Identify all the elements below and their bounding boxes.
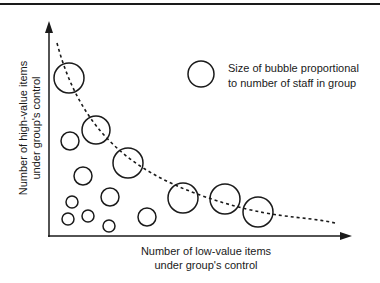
- y-axis-label-line2: under group's control: [30, 33, 43, 223]
- bubble: [101, 188, 119, 206]
- y-axis-arrow-icon: [45, 21, 53, 33]
- legend-bubble-icon: [188, 61, 214, 87]
- bubble: [82, 210, 94, 222]
- y-axis-label-line1: Number of high-value items: [17, 33, 30, 223]
- bubble: [62, 213, 74, 225]
- legend-line2: to number of staff in group: [228, 76, 378, 91]
- x-axis-arrow-icon: [340, 232, 352, 240]
- bubble: [138, 208, 156, 226]
- bubble-chart: [0, 0, 380, 283]
- bubble: [210, 184, 240, 214]
- bubble: [168, 183, 198, 213]
- diagram-frame: Number of high-value items under group's…: [0, 0, 380, 283]
- bubble: [74, 167, 92, 185]
- bubble: [113, 148, 143, 178]
- legend-line1: Size of bubble proportional: [228, 61, 378, 76]
- bubble: [66, 196, 78, 208]
- bubble: [61, 132, 79, 150]
- y-axis-label: Number of high-value items under group's…: [17, 33, 43, 223]
- x-axis-label-line1: Number of low-value items: [126, 244, 286, 258]
- bubble: [103, 220, 115, 232]
- legend: Size of bubble proportional to number of…: [228, 61, 378, 91]
- bubble: [82, 116, 110, 144]
- x-axis-label: Number of low-value items under group's …: [126, 244, 286, 272]
- x-axis-label-line2: under group's control: [126, 258, 286, 272]
